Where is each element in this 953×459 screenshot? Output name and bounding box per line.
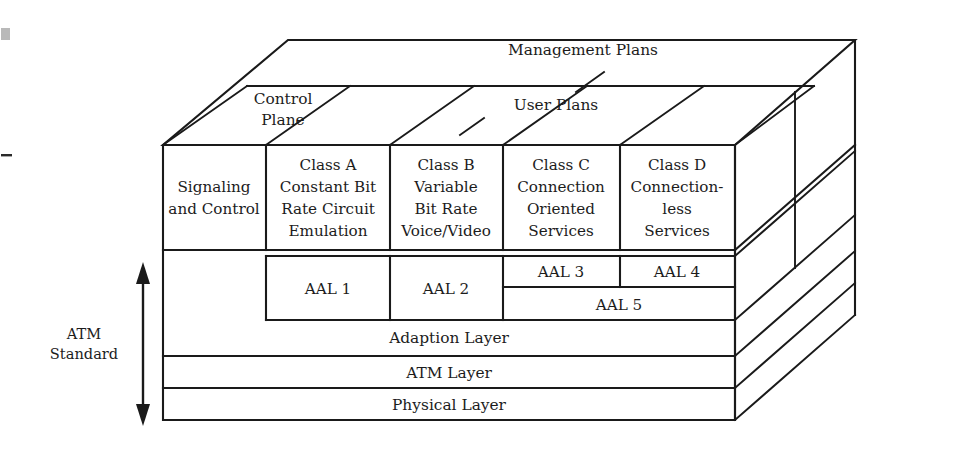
class-d-cell-line-1: Class D (648, 156, 706, 174)
aal1-label: AAL 1 (304, 280, 352, 298)
signaling-cell-line-2: and Control (168, 200, 259, 218)
adaption-layer-label: Adaption Layer (388, 329, 509, 347)
control-plane-label-line2: Plane (261, 111, 304, 129)
class-b-cell-line-4: Voice/Video (400, 222, 491, 240)
page-margin-mark-dash (1, 154, 12, 156)
class-d-cell-line-2: Connection- (631, 178, 724, 196)
figure-canvas: Management Plans User Plans Control Plan… (0, 0, 953, 459)
class-b-cell-line-3: Bit Rate (415, 200, 478, 218)
class-a-cell-line-2: Constant Bit (280, 178, 376, 196)
class-a-cell-line-3: Rate Circuit (281, 200, 375, 218)
user-plans-label: User Plans (514, 96, 599, 114)
class-d-cell-line-4: Services (644, 222, 710, 240)
class-c-cell-line-1: Class C (532, 156, 590, 174)
class-d-cell-line-3: less (662, 200, 692, 218)
atm-protocol-reference-model-diagram: Management Plans User Plans Control Plan… (0, 0, 953, 459)
class-c-cell-line-4: Services (528, 222, 594, 240)
management-plans-label: Management Plans (508, 41, 658, 59)
aal2-label: AAL 2 (422, 280, 470, 298)
atm-standard-label-line1: ATM (66, 325, 101, 342)
control-plane-label-line1: Control (254, 90, 313, 108)
physical-layer-label: Physical Layer (392, 396, 507, 414)
page-margin-mark-gray (1, 28, 10, 40)
atm-standard-label-line2: Standard (50, 345, 118, 362)
atm-layer-label: ATM Layer (405, 364, 492, 382)
class-b-cell-line-2: Variable (413, 178, 477, 196)
atm-standard-arrow-head-up (136, 262, 150, 284)
class-a-cell-line-4: Emulation (288, 222, 367, 240)
aal3-label: AAL 3 (537, 263, 585, 281)
class-a-cell-line-1: Class A (300, 156, 358, 174)
atm-standard-arrow-head-down (136, 404, 150, 426)
class-b-cell-line-1: Class B (417, 156, 474, 174)
aal4-label: AAL 4 (653, 263, 701, 281)
class-c-cell-line-3: Oriented (527, 200, 595, 218)
class-c-cell-line-2: Connection (517, 178, 605, 196)
signaling-cell-line-1: Signaling (177, 178, 250, 196)
atm-standard-annotation-group (136, 262, 150, 426)
aal5-label: AAL 5 (595, 296, 643, 314)
